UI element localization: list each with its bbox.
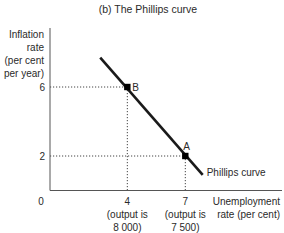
x-tick-sublabel: (output is — [165, 209, 206, 220]
y-tick-label-2: 2 — [39, 151, 45, 162]
point-B — [124, 84, 130, 90]
y-axis-label-line: Inflation — [9, 29, 44, 40]
phillips-curve-chart: (b) The Phillips curve Inflation rate (p… — [0, 0, 284, 233]
x-tick-sublabel: 7 500) — [171, 222, 199, 233]
guide-lines — [50, 87, 185, 191]
y-tick-label-6: 6 — [39, 82, 45, 93]
phillips-curve-label: Phillips curve — [207, 167, 266, 178]
point-label-A: A — [183, 141, 190, 152]
y-axis-label-line: (per cent — [5, 55, 45, 66]
x-axis-label: Unemployment rate (per cent) — [213, 196, 280, 220]
x-tick-sublabel: (output is — [107, 209, 148, 220]
y-axis-label-line: per year) — [4, 68, 44, 79]
x-tick-label: 4 — [125, 196, 131, 207]
y-axis-label: Inflation rate (per cent per year) — [4, 29, 44, 79]
x-tick-4: 4 (output is 8 000) — [107, 196, 148, 233]
origin-label: 0 — [38, 196, 44, 207]
x-tick-label: 7 — [183, 196, 189, 207]
x-axis-label-line: rate (per cent) — [217, 209, 280, 220]
y-axis-label-line: rate — [27, 42, 45, 53]
x-tick-7: 7 (output is 7 500) — [165, 196, 206, 233]
point-A — [182, 153, 188, 159]
x-axis-label-line: Unemployment — [213, 196, 280, 207]
x-tick-sublabel: 8 000) — [113, 222, 141, 233]
chart-title: (b) The Phillips curve — [99, 3, 198, 15]
point-label-B: B — [132, 82, 139, 93]
